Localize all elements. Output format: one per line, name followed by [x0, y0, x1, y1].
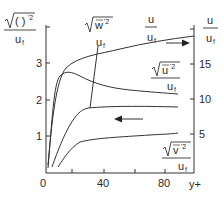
- svg-text:( ): ( ): [15, 15, 25, 27]
- svg-text:f: f: [185, 166, 187, 173]
- svg-text:'2: '2: [28, 14, 33, 21]
- u-rms-label: u '2 u f: [151, 62, 180, 93]
- left-axis-title: ( ) '2 u f: [4, 13, 36, 46]
- y-left-tick-3: 3: [36, 57, 42, 69]
- svg-text:u: u: [96, 36, 102, 48]
- arrow-left-icon: [114, 116, 122, 123]
- y-right-tick-15: 15: [199, 58, 211, 70]
- w-rms-label: w '2 u f: [85, 17, 113, 49]
- svg-text:'2: '2: [181, 143, 186, 150]
- curve-v-rms: [58, 133, 178, 167]
- svg-text:'2: '2: [170, 63, 175, 70]
- svg-text:u: u: [162, 64, 168, 76]
- v-rms-label: v '2 u f: [162, 142, 191, 173]
- y-left-tick-2: 2: [36, 94, 42, 106]
- svg-text:f: f: [154, 37, 156, 44]
- turbulence-chart: 3 2 1 0 40 80 y+ 15 10 5 ( ) '2 u f w: [0, 0, 223, 199]
- right-axis-title: u u f: [203, 14, 218, 45]
- svg-text:v: v: [173, 144, 179, 156]
- svg-text:f: f: [103, 42, 105, 49]
- svg-text:f: f: [213, 38, 215, 45]
- curve-w-rms: [52, 106, 178, 167]
- x-tick-40: 40: [97, 177, 109, 189]
- svg-text:u: u: [15, 33, 21, 45]
- svg-text:u: u: [147, 31, 153, 43]
- svg-text:u: u: [178, 160, 184, 172]
- svg-text:f: f: [22, 39, 24, 46]
- svg-text:u: u: [206, 32, 212, 44]
- svg-text:u: u: [167, 80, 173, 92]
- svg-text:w: w: [94, 19, 103, 31]
- axes: [46, 25, 194, 173]
- y-right-tick-10: 10: [199, 93, 211, 105]
- arrow-right-icon: [182, 40, 190, 47]
- x-tick-80: 80: [158, 177, 170, 189]
- svg-text:u: u: [207, 14, 213, 26]
- y-right-tick-5: 5: [199, 128, 205, 140]
- u-mean-label: u u f: [145, 13, 157, 44]
- svg-text:'2: '2: [104, 18, 109, 25]
- x-axis-label: y+: [189, 178, 201, 190]
- svg-text:f: f: [174, 86, 176, 93]
- y-left-tick-1: 1: [36, 130, 42, 142]
- svg-text:u: u: [148, 13, 154, 25]
- x-tick-0: 0: [40, 177, 46, 189]
